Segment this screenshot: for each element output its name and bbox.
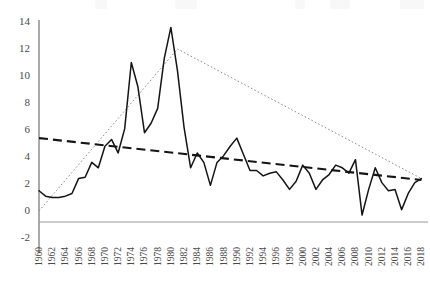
x-tick-label: 1974: [126, 247, 136, 266]
y-tick-label: -2: [4, 232, 30, 243]
x-tick-label: 1968: [87, 247, 97, 266]
x-tick-label: 1972: [113, 247, 123, 266]
x-tick-label: 1960: [34, 247, 44, 266]
x-tick-label: 1998: [285, 247, 295, 266]
x-tick-label: 1976: [139, 247, 149, 266]
x-tick-label: 2016: [403, 247, 413, 266]
x-tick-label: 2004: [324, 247, 334, 266]
x-tick-label: 1982: [179, 247, 189, 266]
x-tick-label: 1992: [245, 247, 255, 266]
x-tick-label: 1996: [271, 247, 281, 266]
x-tick-label: 2014: [390, 247, 400, 266]
y-tick-label: 8: [4, 97, 30, 108]
x-tick-label: 1980: [166, 247, 176, 266]
x-tick-label: 1978: [153, 247, 163, 266]
x-tick-label: 2010: [364, 247, 374, 266]
x-tick-label: 2000: [298, 247, 308, 266]
x-tick-label: 1970: [100, 247, 110, 266]
x-tick-label: 1964: [60, 247, 70, 266]
linear-trend-dashed-line: [39, 138, 421, 180]
x-tick-label: 2002: [311, 247, 321, 266]
y-tick-label: 10: [4, 70, 30, 81]
axes: [39, 20, 428, 253]
x-tick-label: 1994: [258, 247, 268, 266]
x-tick-label: 1962: [47, 247, 57, 266]
x-tick-label: 1988: [219, 247, 229, 266]
y-tick-label: 12: [4, 43, 30, 54]
x-tick-label: 2018: [416, 247, 426, 266]
x-tick-label: 1984: [192, 247, 202, 266]
x-tick-label: 2006: [337, 247, 347, 266]
x-tick-label: 2012: [377, 247, 387, 266]
annual-rate-solid-line: [39, 27, 421, 215]
x-tick-label: 2008: [350, 247, 360, 266]
x-tick-label: 1986: [205, 247, 215, 266]
data-series-layer: [39, 27, 421, 215]
y-tick-label: 2: [4, 178, 30, 189]
peak-trend-dotted-line: [39, 49, 421, 211]
chart-container: 14121086420-2 19601962196419661968197019…: [0, 0, 430, 293]
y-tick-label: 4: [4, 151, 30, 162]
y-tick-label: 0: [4, 205, 30, 216]
y-tick-label: 6: [4, 124, 30, 135]
y-tick-label: 14: [4, 16, 30, 27]
x-tick-label: 1990: [232, 247, 242, 266]
x-tick-label: 1966: [74, 247, 84, 266]
